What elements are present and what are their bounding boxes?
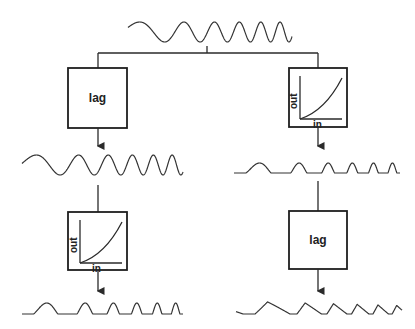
- splitter: [98, 46, 318, 68]
- lagged-wave-left: [22, 155, 183, 175]
- input-wave: [128, 22, 292, 42]
- nonlinear-block-left: out in: [68, 212, 127, 274]
- lag-label: lag: [89, 91, 106, 105]
- axis-label-out: out: [68, 237, 79, 253]
- axis-label-out: out: [288, 93, 299, 109]
- output-wave-left: [22, 303, 183, 314]
- axis-label-in: in: [92, 263, 101, 274]
- lag-block-left: lag: [68, 68, 127, 128]
- lag-block-right: lag: [289, 211, 347, 269]
- output-wave-right: [236, 302, 402, 314]
- signal-flow-diagram: lag out in out in lag: [0, 0, 415, 329]
- nonlinear-block-right: out in: [288, 68, 347, 130]
- lag-label: lag: [309, 233, 326, 247]
- rectified-wave-right: [234, 163, 400, 173]
